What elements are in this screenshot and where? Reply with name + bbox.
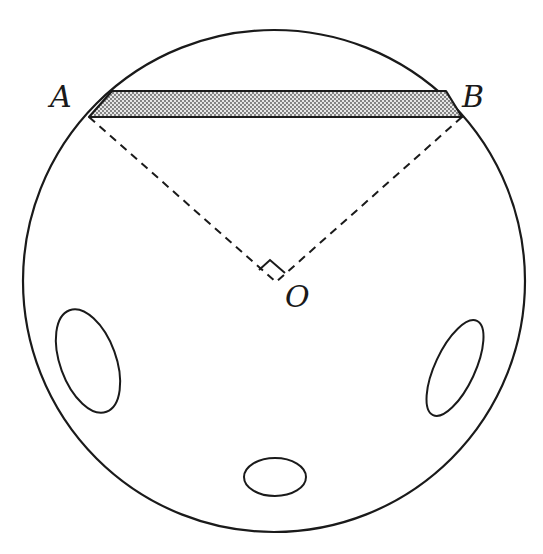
label-O: O (285, 279, 310, 314)
label-B: B (461, 79, 484, 114)
label-A: A (47, 79, 72, 114)
right-angle-marker (259, 260, 285, 273)
geometry-diagram: A B O (0, 0, 543, 554)
shaded-strip (89, 91, 462, 117)
left-ellipse (43, 301, 133, 422)
bottom-ellipse (244, 458, 306, 496)
radius-OA (89, 117, 276, 282)
right-ellipse (415, 312, 495, 423)
radius-OB (276, 117, 462, 282)
